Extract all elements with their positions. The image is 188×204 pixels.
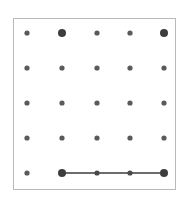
grid-dot-r1-c1	[24, 30, 29, 35]
grid-dot-r5-c4	[127, 170, 132, 175]
dot-grid-figure	[0, 0, 188, 204]
grid-dot-r3-c4	[127, 100, 132, 105]
dot-grid-canvas	[0, 0, 188, 204]
grid-dot-r4-c1	[24, 135, 29, 140]
grid-dot-r2-c2	[59, 65, 64, 70]
dot-layer	[24, 29, 168, 177]
grid-dot-r4-c3	[94, 135, 99, 140]
grid-dot-r5-c3	[94, 170, 99, 175]
grid-dot-r5-c1	[24, 170, 29, 175]
grid-dot-r4-c2	[59, 135, 64, 140]
grid-dot-r3-c3	[94, 100, 99, 105]
grid-dot-r4-c4	[127, 135, 132, 140]
grid-dot-r2-c4	[127, 65, 132, 70]
grid-dot-r1-c2	[58, 29, 66, 37]
grid-dot-r3-c5	[161, 100, 166, 105]
grid-dot-r2-c1	[24, 65, 29, 70]
grid-dot-r3-c2	[59, 100, 64, 105]
grid-dot-r4-c5	[161, 135, 166, 140]
grid-dot-r1-c4	[127, 30, 132, 35]
grid-dot-r3-c1	[24, 100, 29, 105]
grid-dot-r2-c5	[161, 65, 166, 70]
grid-dot-r1-c3	[94, 30, 99, 35]
grid-dot-r5-c5	[160, 169, 168, 177]
grid-dot-r2-c3	[94, 65, 99, 70]
grid-dot-r5-c2	[58, 169, 66, 177]
grid-dot-r1-c5	[160, 29, 168, 37]
